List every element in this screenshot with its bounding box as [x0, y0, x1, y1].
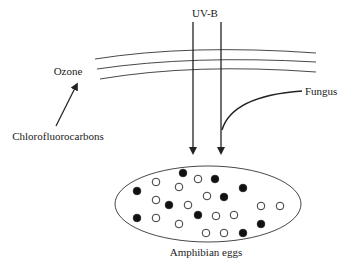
egg-healthy: [212, 212, 220, 220]
cfc-arrow: [56, 86, 76, 126]
uvb-label: UV-B: [192, 7, 218, 19]
ozone-label: Ozone: [54, 65, 83, 77]
egg-infected: [239, 229, 247, 237]
egg-healthy: [152, 178, 160, 186]
egg-healthy: [152, 196, 160, 204]
egg-healthy: [202, 229, 210, 237]
ozone-layer: [95, 50, 316, 79]
egg-infected: [165, 201, 173, 209]
egg-healthy: [175, 220, 183, 228]
egg-healthy: [257, 202, 265, 210]
fungus-label: Fungus: [305, 85, 337, 97]
ozone-arc-1: [95, 50, 316, 59]
amphibian-eggs: [133, 169, 284, 237]
eggs-label: Amphibian eggs: [170, 246, 242, 258]
ozone-arc-2: [97, 60, 316, 69]
ozone-arc-3: [100, 69, 316, 79]
egg-healthy: [203, 192, 211, 200]
egg-infected: [239, 184, 247, 192]
egg-healthy: [184, 201, 192, 209]
uvb-amphibian-diagram: UV-B Ozone Chlorofluorocarbons Fungus Am…: [0, 0, 352, 267]
egg-healthy: [152, 214, 160, 222]
egg-healthy: [175, 183, 183, 191]
cfc-label: Chlorofluorocarbons: [12, 130, 104, 142]
egg-infected: [133, 214, 141, 222]
egg-healthy: [230, 211, 238, 219]
egg-infected: [179, 169, 187, 177]
egg-healthy: [194, 175, 202, 183]
egg-healthy: [220, 229, 228, 237]
egg-healthy: [276, 202, 284, 210]
egg-infected: [257, 220, 265, 228]
egg-infected: [220, 193, 228, 201]
fungus-curve: [222, 91, 302, 130]
uvb-rays: [193, 22, 221, 151]
egg-infected: [194, 211, 202, 219]
egg-infected: [133, 187, 141, 195]
egg-infected: [211, 175, 219, 183]
